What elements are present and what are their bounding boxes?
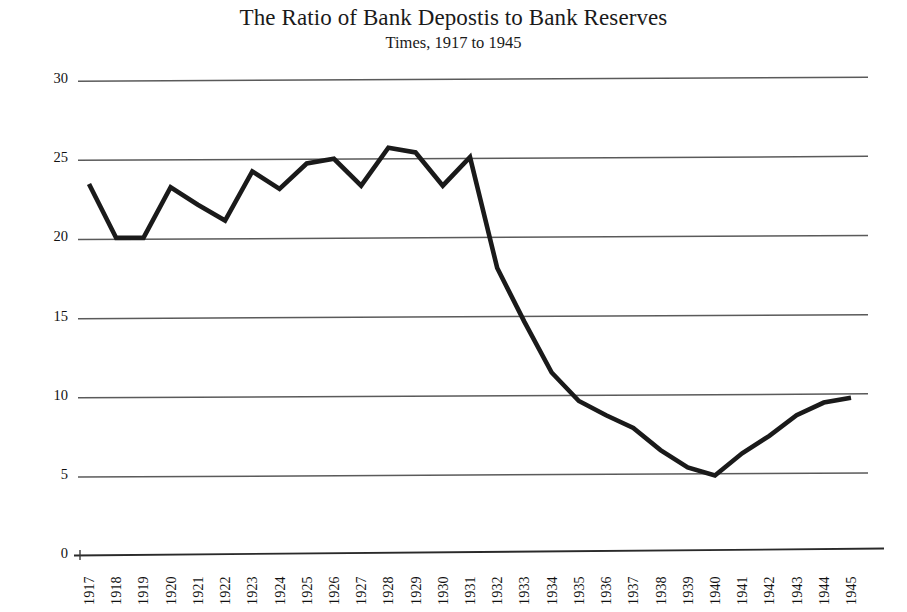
gridline-15 bbox=[78, 315, 868, 319]
x-tick-label-1925: 1925 bbox=[301, 576, 315, 605]
x-tick-label-1924: 1924 bbox=[274, 576, 288, 605]
x-tick-label-1936: 1936 bbox=[600, 576, 614, 605]
x-tick-label-1930: 1930 bbox=[437, 576, 451, 605]
gridline-5 bbox=[78, 473, 868, 477]
y-tick-label-0: 0 bbox=[34, 546, 68, 561]
x-tick-label-1918: 1918 bbox=[110, 576, 124, 605]
x-tick-label-1921: 1921 bbox=[192, 576, 206, 605]
x-tick-label-1933: 1933 bbox=[518, 576, 532, 605]
chart-figure: The Ratio of Bank Depostis to Bank Reser… bbox=[0, 0, 907, 612]
x-tick-label-1932: 1932 bbox=[491, 576, 505, 605]
x-axis-baseline bbox=[74, 549, 884, 556]
gridlines-group bbox=[78, 77, 868, 477]
x-tick-label-1941: 1941 bbox=[736, 576, 750, 605]
x-tick-label-1938: 1938 bbox=[655, 576, 669, 605]
y-tick-label-25: 25 bbox=[34, 150, 68, 165]
x-tick-label-1934: 1934 bbox=[546, 576, 560, 605]
x-tick-label-1927: 1927 bbox=[355, 576, 369, 605]
x-tick-label-1917: 1917 bbox=[83, 576, 97, 605]
x-tick-label-1943: 1943 bbox=[791, 576, 805, 605]
y-tick-label-20: 20 bbox=[34, 229, 68, 244]
y-tick-label-15: 15 bbox=[34, 309, 68, 324]
y-tick-label-10: 10 bbox=[34, 388, 68, 403]
gridline-10 bbox=[78, 394, 868, 398]
x-tick-label-1942: 1942 bbox=[763, 576, 777, 605]
data-series-group bbox=[89, 148, 851, 476]
x-tick-label-1929: 1929 bbox=[410, 576, 424, 605]
x-axis-line-group bbox=[74, 549, 884, 561]
x-tick-label-1939: 1939 bbox=[682, 576, 696, 605]
x-tick-label-1919: 1919 bbox=[137, 576, 151, 605]
x-tick-label-1937: 1937 bbox=[627, 576, 641, 605]
y-tick-label-30: 30 bbox=[34, 71, 68, 86]
x-tick-label-1923: 1923 bbox=[246, 576, 260, 605]
plot-canvas bbox=[0, 0, 907, 612]
x-tick-label-1931: 1931 bbox=[464, 576, 478, 605]
x-tick-label-1935: 1935 bbox=[573, 576, 587, 605]
x-tick-label-1926: 1926 bbox=[328, 576, 342, 605]
x-tick-label-1940: 1940 bbox=[709, 576, 723, 605]
gridline-20 bbox=[78, 236, 868, 240]
x-tick-label-1945: 1945 bbox=[845, 576, 859, 605]
gridline-30 bbox=[78, 77, 868, 81]
plot-area: 051015202530 191719181919192019211922192… bbox=[0, 0, 907, 612]
x-tick-label-1928: 1928 bbox=[382, 576, 396, 605]
x-tick-label-1944: 1944 bbox=[818, 576, 832, 605]
x-tick-label-1922: 1922 bbox=[219, 576, 233, 605]
y-tick-label-5: 5 bbox=[34, 467, 68, 482]
data-line-bank-deposit-ratio bbox=[89, 148, 851, 476]
x-tick-label-1920: 1920 bbox=[165, 576, 179, 605]
